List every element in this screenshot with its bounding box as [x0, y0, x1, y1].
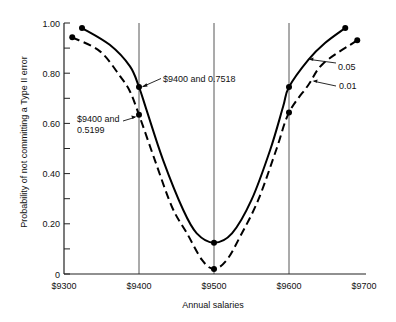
reference-lines	[139, 23, 289, 274]
arrowhead-icon	[313, 79, 318, 82]
series-label-001-text: 0.01	[339, 81, 357, 91]
y-axis-ticks: 00.200.400.600.801.00	[42, 19, 70, 280]
annotation-dashed-9400-line2: 0.5199	[77, 125, 105, 135]
series-label-001: 0.01	[313, 79, 357, 91]
data-point-marker	[79, 25, 85, 31]
annotation-solid-9400: $9400 and 0.7518	[142, 74, 236, 87]
annotation-solid-9400-text: $9400 and 0.7518	[163, 74, 236, 84]
x-tick-label: $9400	[126, 281, 151, 291]
y-axis-title: Probability of not committing a Type II …	[19, 56, 29, 227]
y-tick-label: 0.40	[42, 169, 60, 179]
y-tick-label: 0.20	[42, 219, 60, 229]
annotation-dashed-9400-line1: $9400 and	[77, 114, 120, 124]
x-axis-ticks: $9300$9400$9500$9600$9700	[51, 281, 376, 291]
data-point-marker	[211, 240, 217, 246]
x-tick-label: $9600	[276, 281, 301, 291]
y-tick-label: 0.60	[42, 119, 60, 129]
y-tick-label: 1.00	[42, 19, 60, 29]
type-ii-error-chart: 00.200.400.600.801.00 $9300$9400$9500$96…	[0, 0, 396, 322]
curve-alpha-001	[72, 37, 357, 269]
annotation-dashed-9400: $9400 and 0.5199	[77, 114, 137, 135]
x-axis-title: Annual salaries	[182, 300, 244, 310]
y-tick-label: 0	[55, 270, 60, 280]
data-point-marker	[286, 84, 292, 90]
data-point-marker	[286, 110, 292, 116]
x-tick-label: $9300	[51, 281, 76, 291]
data-point-marker	[342, 25, 348, 31]
data-point-marker	[69, 34, 75, 40]
series-label-005-text: 0.05	[338, 62, 356, 72]
x-tick-label: $9700	[351, 281, 376, 291]
data-point-marker	[136, 112, 142, 118]
series-label-005: 0.05	[309, 57, 356, 72]
x-tick-label: $9500	[201, 281, 226, 291]
data-point-marker	[136, 84, 142, 90]
series-layer	[69, 25, 360, 272]
y-tick-label: 0.80	[42, 69, 60, 79]
annotation-arrow	[314, 81, 336, 86]
arrowhead-icon	[142, 83, 148, 87]
data-point-marker	[354, 37, 360, 43]
data-point-marker	[211, 266, 217, 272]
